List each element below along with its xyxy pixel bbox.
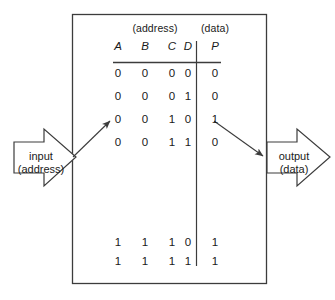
- table-row: 1: [212, 256, 218, 268]
- input-arrow-label: input (address): [18, 150, 64, 176]
- table-row: 1: [212, 237, 218, 249]
- column-header-b: B: [141, 41, 149, 53]
- output-arrow-label-line1: output: [279, 150, 310, 163]
- column-header-a: A: [114, 41, 122, 53]
- table-row: 1: [142, 256, 148, 268]
- table-row: 0: [142, 91, 148, 103]
- table-row: 1: [115, 256, 121, 268]
- table-row: 0: [212, 91, 218, 103]
- table-row: 0: [142, 114, 148, 126]
- memory-lookup-diagram: (address) (data) A B C D P 0 0 0 0 0 0 0…: [0, 0, 335, 300]
- output-arrow-label-line2: (data): [279, 163, 310, 176]
- column-header-d: D: [184, 41, 192, 53]
- table-row: 0: [115, 68, 121, 80]
- table-row: 0: [115, 114, 121, 126]
- table-row: 1: [169, 237, 175, 249]
- table-row: 0: [185, 114, 191, 126]
- column-header-p: P: [211, 41, 219, 53]
- table-row: 0: [185, 237, 191, 249]
- table-row: 1: [115, 237, 121, 249]
- input-arrow-label-line2: (address): [18, 163, 64, 176]
- group-header-address: (address): [132, 23, 177, 34]
- table-row: 1: [185, 91, 191, 103]
- table-row: 1: [185, 137, 191, 149]
- table-row: 1: [212, 114, 218, 126]
- table-row: 0: [212, 68, 218, 80]
- input-arrow-label-line1: input: [18, 150, 64, 163]
- table-row: 0: [212, 137, 218, 149]
- table-row: 1: [142, 237, 148, 249]
- table-row: 1: [169, 256, 175, 268]
- table-row: 1: [169, 137, 175, 149]
- table-row: 0: [185, 68, 191, 80]
- column-header-c: C: [168, 41, 176, 53]
- table-row: 0: [142, 68, 148, 80]
- output-arrow-label: output (data): [279, 150, 310, 176]
- table-row: 0: [115, 137, 121, 149]
- group-header-data: (data): [201, 23, 229, 34]
- table-row: 0: [115, 91, 121, 103]
- table-row: 0: [169, 68, 175, 80]
- table-row: 1: [169, 114, 175, 126]
- table-row: 0: [169, 91, 175, 103]
- table-row: 1: [185, 256, 191, 268]
- table-row: 0: [142, 137, 148, 149]
